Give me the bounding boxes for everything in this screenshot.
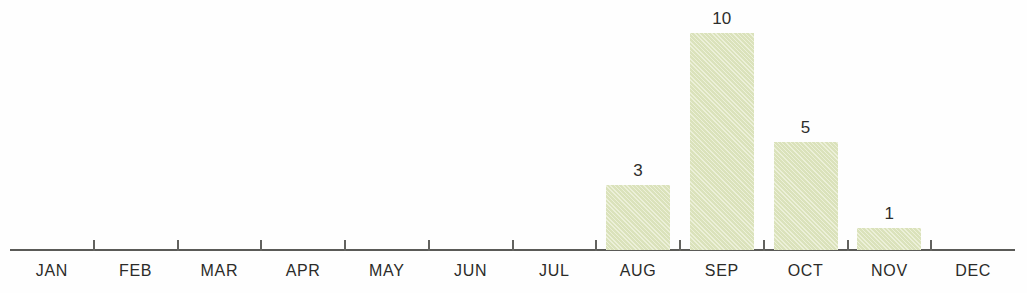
x-label-may: MAY	[342, 262, 432, 280]
bar-nov[interactable]	[857, 228, 921, 250]
bar-sep[interactable]	[690, 33, 754, 250]
bar-aug[interactable]	[606, 185, 670, 250]
x-axis-tick	[177, 240, 179, 251]
x-axis-tick	[679, 240, 681, 251]
x-axis-tick	[260, 240, 262, 251]
x-axis-tick	[428, 240, 430, 251]
value-label-aug: 3	[598, 161, 678, 181]
x-label-jun: JUN	[426, 262, 516, 280]
value-label-oct: 5	[766, 118, 846, 138]
x-label-jan: JAN	[7, 262, 97, 280]
x-label-apr: APR	[258, 262, 348, 280]
x-label-oct: OCT	[761, 262, 851, 280]
x-axis-tick	[763, 240, 765, 251]
x-axis-tick	[930, 240, 932, 251]
bar-oct[interactable]	[774, 142, 838, 251]
bar-chart: 31051 JANFEBMARAPRMAYJUNJULAUGSEPOCTNOVD…	[0, 0, 1027, 293]
x-label-jul: JUL	[509, 262, 599, 280]
x-axis-tick	[93, 240, 95, 251]
x-axis-tick	[595, 240, 597, 251]
x-label-dec: DEC	[928, 262, 1018, 280]
value-label-nov: 1	[849, 204, 929, 224]
x-axis-tick	[512, 240, 514, 251]
x-axis-tick	[847, 240, 849, 251]
x-label-aug: AUG	[593, 262, 683, 280]
x-label-nov: NOV	[844, 262, 934, 280]
x-label-feb: FEB	[91, 262, 181, 280]
x-label-mar: MAR	[174, 262, 264, 280]
x-axis-tick	[344, 240, 346, 251]
value-label-sep: 10	[682, 9, 762, 29]
plot-area: 31051 JANFEBMARAPRMAYJUNJULAUGSEPOCTNOVD…	[0, 0, 1027, 293]
x-label-sep: SEP	[677, 262, 767, 280]
